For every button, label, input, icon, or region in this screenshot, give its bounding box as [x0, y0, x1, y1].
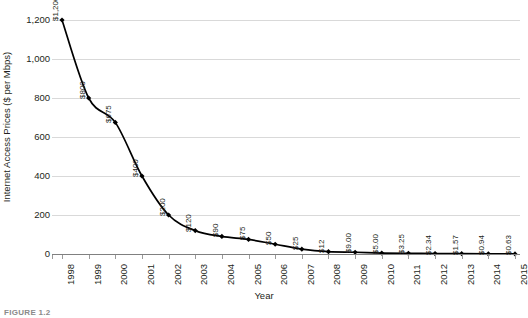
x-axis-tick — [515, 255, 516, 259]
x-axis-title: Year — [0, 290, 528, 301]
y-axis-tick-label: 1,200 — [4, 15, 50, 25]
x-axis-tick-label: 2002 — [173, 264, 183, 285]
x-axis-tick-label: 2011 — [412, 265, 422, 285]
x-axis-tick — [275, 255, 276, 259]
x-axis-tick — [195, 255, 196, 259]
data-point-label: $800 — [78, 81, 87, 99]
x-axis-tick — [328, 255, 329, 259]
x-axis-tick-label: 2015 — [519, 264, 528, 285]
x-axis-tick — [382, 255, 383, 259]
series-path — [62, 20, 515, 254]
data-point-label: $200 — [158, 198, 167, 216]
x-axis-tick — [488, 255, 489, 259]
x-axis-tick — [115, 255, 116, 259]
data-point-label: $0.94 — [477, 235, 486, 255]
x-axis-tick — [62, 255, 63, 259]
data-point-label: $50 — [264, 232, 273, 245]
chart-figure: Internet Access Prices ($ per Mbps) 1,20… — [0, 0, 528, 318]
y-axis-tick-labels: 1,2001,0008006004002000 — [0, 0, 50, 318]
x-axis-tick-label: 1999 — [93, 264, 103, 285]
data-point-marker — [59, 17, 64, 22]
x-axis-tick-label: 2012 — [439, 264, 449, 285]
data-point-label: $3.25 — [397, 234, 406, 254]
x-axis-tick — [169, 255, 170, 259]
x-axis-tick-label: 2001 — [146, 264, 156, 285]
data-point-label: $12 — [317, 239, 326, 252]
x-axis-tick-label: 2000 — [119, 264, 129, 285]
y-axis-tick-label: 0 — [4, 249, 50, 259]
x-axis-tick-label: 2014 — [492, 264, 502, 285]
x-axis-tick-label: 1998 — [66, 264, 76, 285]
y-axis-tick-label: 800 — [4, 93, 50, 103]
data-point-label: $400 — [131, 159, 140, 177]
data-point-label: $75 — [238, 227, 247, 240]
y-axis-tick-label: 1,000 — [4, 54, 50, 64]
x-axis-tick — [89, 255, 90, 259]
data-point-label: $675 — [104, 106, 113, 124]
x-axis-tick-label: 2010 — [386, 264, 396, 285]
x-axis-line — [52, 254, 520, 255]
series-line — [52, 14, 520, 260]
x-axis-tick — [435, 255, 436, 259]
data-point-label: $9.00 — [344, 233, 353, 253]
y-axis-tick-label: 400 — [4, 171, 50, 181]
data-point-marker — [219, 234, 224, 239]
x-axis-tick — [52, 255, 53, 259]
figure-caption: FIGURE 1.2 — [4, 308, 51, 317]
data-point-label: $90 — [211, 224, 220, 237]
data-point-marker — [273, 242, 278, 247]
data-point-label: $25 — [291, 237, 300, 250]
data-point-label: $0.63 — [504, 235, 513, 255]
x-axis-tick — [249, 255, 250, 259]
x-axis-tick — [142, 255, 143, 259]
x-axis-tick-label: 2009 — [359, 264, 369, 285]
x-axis-tick — [355, 255, 356, 259]
data-point-label: $1,200 — [51, 0, 60, 21]
data-point-label: $1.57 — [451, 235, 460, 255]
data-point-label: $5.00 — [371, 234, 380, 254]
plot-area — [52, 14, 520, 260]
x-axis-tick-label: 2003 — [199, 264, 209, 285]
x-axis-tick-label: 2004 — [226, 264, 236, 285]
data-point-label: $2.34 — [424, 235, 433, 255]
x-axis-tick — [408, 255, 409, 259]
y-axis-tick-label: 200 — [4, 210, 50, 220]
x-axis-tick-label: 2007 — [306, 264, 316, 285]
data-point-label: $120 — [184, 214, 193, 232]
x-axis-tick — [462, 255, 463, 259]
x-axis-tick-label: 2005 — [253, 264, 263, 285]
x-axis-tick — [222, 255, 223, 259]
y-axis-tick-label: 600 — [4, 132, 50, 142]
data-point-marker — [193, 228, 198, 233]
x-axis-tick — [302, 255, 303, 259]
x-axis-tick-label: 2013 — [466, 264, 476, 285]
x-axis-tick-label: 2006 — [279, 264, 289, 285]
data-point-marker — [299, 247, 304, 252]
x-axis-tick-label: 2008 — [332, 264, 342, 285]
